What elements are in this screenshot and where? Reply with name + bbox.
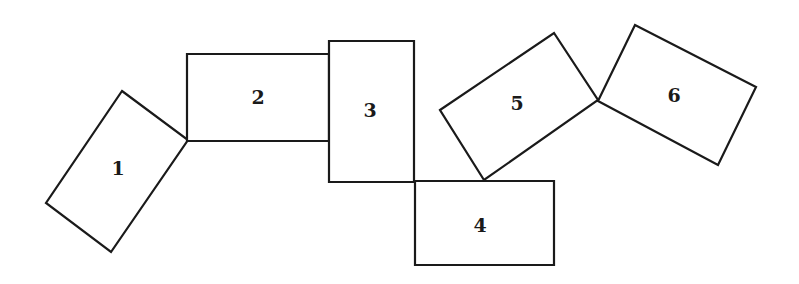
rectangle-4: 4 (415, 181, 554, 265)
rectangle-6-label: 6 (667, 84, 680, 106)
rectangle-5: 5 (440, 33, 598, 180)
rectangle-1: 1 (46, 91, 188, 252)
rectangle-6: 6 (598, 25, 756, 165)
rectangle-3: 3 (329, 41, 414, 182)
rectangle-2-label: 2 (251, 86, 264, 108)
rectangle-2: 2 (187, 54, 329, 141)
rectangle-3-label: 3 (363, 99, 376, 121)
rectangle-5-label: 5 (510, 92, 523, 114)
rectangle-chain-diagram: 1 2 3 4 5 6 (0, 0, 799, 284)
rectangle-1-label: 1 (111, 157, 124, 179)
rectangle-4-label: 4 (473, 214, 486, 236)
